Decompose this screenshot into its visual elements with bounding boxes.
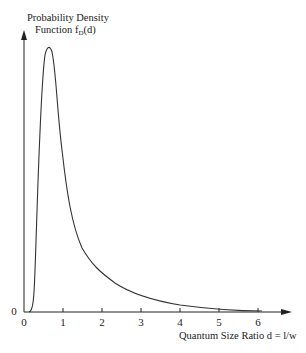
- y-axis-arrow-icon: [21, 30, 27, 40]
- y-origin-label: 0: [11, 305, 17, 317]
- y-axis-label-suffix: (d): [84, 24, 96, 35]
- y-axis-label-line1: Probability Density: [27, 12, 109, 24]
- chart-canvas: [0, 0, 306, 353]
- y-axis-label-line2: Function fD(d): [35, 24, 96, 39]
- density-curve: [29, 47, 262, 312]
- x-tick-label-0: 0: [21, 316, 27, 328]
- x-tick-label-6: 6: [255, 316, 261, 328]
- x-tick-label-2: 2: [99, 316, 105, 328]
- x-tick-label-5: 5: [216, 316, 222, 328]
- y-axis-label-prefix: Function f: [35, 24, 78, 35]
- x-tick-label-3: 3: [138, 316, 144, 328]
- x-tick-label-1: 1: [60, 316, 66, 328]
- x-axis-arrow-icon: [281, 309, 292, 315]
- x-axis-label: Quantum Size Ratio d = l/w: [179, 330, 297, 342]
- x-tick-label-4: 4: [177, 316, 183, 328]
